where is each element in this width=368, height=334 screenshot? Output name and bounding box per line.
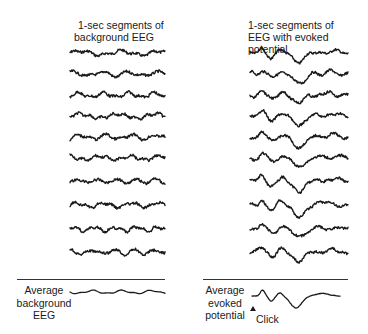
triangle-up-icon bbox=[250, 306, 256, 311]
click-label: Click bbox=[256, 313, 279, 325]
evoked-eeg-segment bbox=[250, 247, 348, 263]
background-eeg-segment bbox=[70, 226, 165, 233]
evoked-eeg-segment bbox=[250, 131, 348, 149]
right-divider bbox=[203, 279, 348, 280]
background-eeg-segment bbox=[70, 154, 165, 162]
average-evoked-potential-trace bbox=[252, 290, 340, 308]
background-eeg-traces bbox=[70, 49, 165, 256]
evoked-eeg-segment bbox=[250, 174, 348, 193]
evoked-eeg-segment bbox=[250, 110, 348, 127]
background-eeg-segment bbox=[70, 248, 165, 256]
right-average-label: Average evoked potential bbox=[200, 284, 250, 322]
average-background-eeg-trace bbox=[70, 290, 165, 294]
evoked-eeg-segment bbox=[250, 47, 348, 64]
left-divider bbox=[17, 279, 165, 280]
background-eeg-segment bbox=[70, 133, 165, 141]
evoked-eeg-segment bbox=[250, 69, 348, 84]
background-eeg-segment bbox=[70, 201, 165, 209]
evoked-eeg-segment bbox=[250, 152, 348, 167]
evoked-eeg-segment bbox=[250, 224, 348, 237]
background-eeg-segment bbox=[70, 112, 165, 120]
left-average-label: Average background EEG bbox=[14, 284, 74, 322]
evoked-eeg-segment bbox=[250, 91, 348, 104]
evoked-eeg-traces bbox=[250, 47, 348, 263]
background-eeg-segment bbox=[70, 178, 165, 185]
background-eeg-segment bbox=[70, 49, 165, 56]
evoked-eeg-segment bbox=[250, 200, 348, 218]
background-eeg-segment bbox=[70, 91, 165, 98]
background-eeg-segment bbox=[70, 70, 165, 78]
